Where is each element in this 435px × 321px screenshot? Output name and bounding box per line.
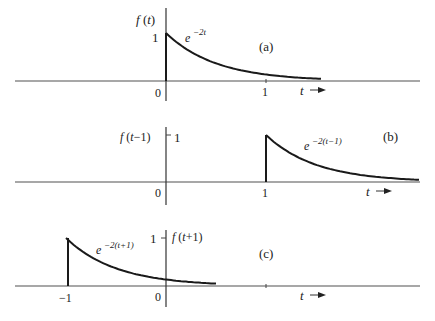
panel-tag-b: (b)	[383, 129, 398, 144]
t-label-b: t	[366, 184, 370, 199]
ylabel-a-arg: (	[140, 12, 148, 27]
origin-label-b: 0	[155, 186, 161, 200]
exponential-curve-c	[66, 238, 216, 284]
panel-c: f (t+1) 1 0 −1 e −2(t+1) (c) t	[15, 230, 420, 307]
expr-base-a: e	[185, 31, 191, 45]
arrow-right-icon	[376, 188, 392, 194]
y-tick-label-1-b: 1	[174, 130, 181, 145]
t-label-c: t	[300, 288, 304, 303]
arrow-right-icon	[310, 87, 326, 93]
expr-base-b: e	[304, 139, 310, 153]
expr-exp-a: −2t	[193, 27, 207, 37]
y-tick-label-1-a: 1	[152, 30, 159, 45]
panel-b: f (t−1) 1 0 1 e −2(t−1) (b) t	[15, 127, 420, 205]
expr-exp-b: −2(t−1)	[312, 136, 342, 146]
x-tick-label-1-a: 1	[262, 85, 268, 99]
x-tick-label-1-b: 1	[262, 186, 268, 200]
expr-base-c: e	[96, 243, 102, 257]
ylabel-b: f (t−1)	[120, 130, 150, 144]
ylabel-c: f (t+1)	[172, 230, 202, 244]
expr-exp-c: −2(t+1)	[104, 240, 134, 250]
panel-tag-a: (a)	[259, 39, 273, 54]
ylabel-a: f (t)	[136, 12, 155, 27]
x-tick-label-neg1-c: −1	[59, 291, 72, 305]
t-label-a: t	[300, 83, 304, 98]
panel-tag-c: (c)	[259, 246, 273, 261]
arrow-right-icon	[310, 292, 326, 298]
y-tick-label-1-c: 1	[150, 231, 157, 246]
origin-label-c: 0	[155, 290, 161, 304]
panel-a: f (t) 1 0 1 e −2t (a) t	[15, 8, 420, 101]
time-shift-figure: f (t) 1 0 1 e −2t (a) t f (t−1) 1 0 1 e …	[0, 0, 435, 321]
origin-label-a: 0	[155, 86, 161, 100]
